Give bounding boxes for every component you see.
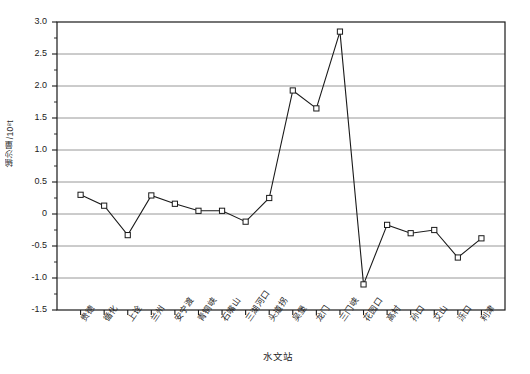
- sediment-discharge-chart: 输沙量/10⁸t 3.02.52.01.51.00.50-0.5-1.0-1.5…: [0, 0, 530, 374]
- y-tick-label: 1.0: [17, 145, 47, 154]
- data-point-marker: [102, 203, 107, 208]
- data-point-marker: [219, 208, 224, 213]
- gridlines-group: [57, 54, 505, 278]
- data-point-marker: [172, 201, 177, 206]
- y-tick-label: 2.5: [17, 49, 47, 58]
- y-tick-label: 0.5: [17, 177, 47, 186]
- data-line: [81, 32, 482, 285]
- data-point-marker: [408, 231, 413, 236]
- data-point-marker: [314, 106, 319, 111]
- data-point-marker: [455, 255, 460, 260]
- y-tick-label: 1.5: [17, 113, 47, 122]
- y-tick-label: -0.5: [17, 241, 47, 250]
- data-point-marker: [337, 29, 342, 34]
- data-point-marker: [290, 88, 295, 93]
- plot-frame: [57, 22, 505, 310]
- y-tick-label: -1.0: [17, 273, 47, 282]
- y-tick-label: 3.0: [17, 17, 47, 26]
- y-tick-label: 0: [17, 209, 47, 218]
- data-point-marker: [125, 233, 130, 238]
- data-point-marker: [432, 227, 437, 232]
- data-point-marker: [479, 236, 484, 241]
- x-axis-title: 水文站: [263, 352, 293, 362]
- y-tick-label: -1.5: [17, 305, 47, 314]
- data-point-marker: [149, 193, 154, 198]
- data-point-marker: [385, 222, 390, 227]
- data-point-marker: [196, 208, 201, 213]
- data-point-marker: [361, 282, 366, 287]
- data-point-marker: [243, 219, 248, 224]
- data-point-marker: [78, 192, 83, 197]
- y-tick-label: 2.0: [17, 81, 47, 90]
- y-axis-title: 输沙量/10⁸t: [6, 120, 24, 167]
- data-markers-group: [78, 29, 484, 287]
- data-point-marker: [267, 195, 272, 200]
